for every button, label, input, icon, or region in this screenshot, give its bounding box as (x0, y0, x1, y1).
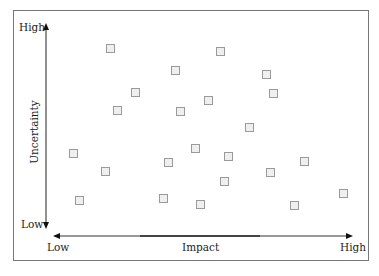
x-axis-arrow-right-icon (346, 233, 353, 239)
data-point-square (159, 194, 168, 203)
data-point-square (224, 152, 233, 161)
data-point-square (290, 201, 299, 210)
data-point-square (196, 200, 205, 209)
data-point-square (106, 44, 115, 53)
y-high-label: High (19, 21, 45, 33)
data-point-square (266, 168, 275, 177)
y-axis-title: Uncertainty (28, 97, 40, 167)
data-point-square (269, 89, 278, 98)
data-point-square (113, 106, 122, 115)
data-point-square (191, 144, 200, 153)
x-axis-title: Impact (182, 241, 219, 253)
data-point-square (300, 157, 309, 166)
data-point-square (69, 149, 78, 158)
data-point-square (339, 189, 348, 198)
x-high-label: High (340, 241, 366, 253)
data-point-square (176, 107, 185, 116)
data-point-square (171, 66, 180, 75)
x-low-label: Low (47, 241, 69, 253)
data-point-square (131, 88, 140, 97)
data-point-square (204, 96, 213, 105)
y-axis-arrow-down-icon (43, 222, 49, 229)
x-axis-arrow-left-icon (53, 233, 60, 239)
y-low-label: Low (21, 218, 43, 230)
data-point-square (262, 70, 271, 79)
data-point-square (75, 196, 84, 205)
data-point-square (245, 123, 254, 132)
data-point-square (220, 177, 229, 186)
data-point-square (101, 167, 110, 176)
axes (0, 0, 379, 276)
data-point-square (216, 47, 225, 56)
data-point-square (164, 158, 173, 167)
